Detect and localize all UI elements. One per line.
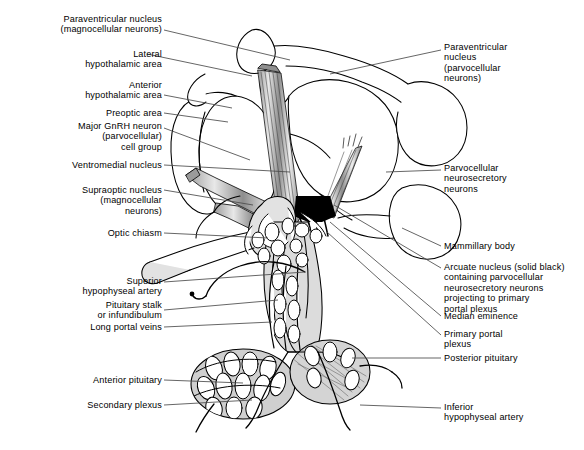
leader-pituitary-stalk-infundibulum bbox=[164, 300, 278, 310]
label-anterior-pituitary: Anterior pituitary bbox=[12, 375, 162, 385]
label-median-eminence: Median eminence bbox=[444, 311, 580, 321]
leader-paraventricular-nucleus-parvocellular bbox=[330, 50, 441, 74]
label-pituitary-stalk-infundibulum: Pituitary stalk or infundibulum bbox=[12, 300, 162, 321]
label-secondary-plexus: Secondary plexus bbox=[12, 400, 162, 410]
label-preoptic-area: Preoptic area bbox=[12, 108, 162, 118]
label-anterior-hypothalamic-area: Anterior hypothalamic area bbox=[12, 80, 162, 101]
label-posterior-pituitary: Posterior pituitary bbox=[444, 353, 580, 363]
label-lateral-hypothalamic-area: Lateral hypothalamic area bbox=[12, 49, 162, 70]
label-long-portal-veins: Long portal veins bbox=[12, 322, 162, 332]
label-primary-portal-plexus: Primary portal plexus bbox=[444, 329, 580, 350]
figure-canvas: Paraventricular nucleus (magnocellular n… bbox=[0, 0, 584, 450]
leader-long-portal-veins bbox=[164, 322, 272, 327]
label-parvocellular-neurosecretory-neurons: Parvocellular neurosecretory neurons bbox=[444, 163, 580, 194]
label-paraventricular-nucleus-magnocellular: Paraventricular nucleus (magnocellular n… bbox=[12, 14, 162, 35]
label-optic-chiasm: Optic chiasm bbox=[12, 228, 162, 238]
label-inferior-hypophyseal-artery: Inferior hypophyseal artery bbox=[444, 402, 580, 423]
label-ventromedial-nucleus: Ventromedial nucleus bbox=[12, 160, 162, 170]
label-mammillary-body: Mammillary body bbox=[444, 241, 580, 251]
label-superior-hypophyseal-artery: Superior hypophyseal artery bbox=[12, 276, 162, 297]
leader-parvocellular-neurosecretory-neurons bbox=[386, 170, 441, 172]
label-arcuate-nucleus: Arcuate nucleus (solid black) containing… bbox=[444, 262, 584, 314]
leader-lateral-hypothalamic-area bbox=[147, 54, 252, 76]
label-major-gnrh-neuron-cell-group: Major GnRH neuron (parvocellular) cell g… bbox=[12, 121, 162, 152]
leader-inferior-hypophyseal-artery bbox=[360, 405, 441, 408]
label-paraventricular-nucleus-parvocellular: Paraventricular nucleus (parvocellular n… bbox=[444, 42, 580, 84]
label-supraoptic-nucleus-magnocellular: Supraoptic nucleus (magnocellular neuron… bbox=[12, 185, 162, 216]
